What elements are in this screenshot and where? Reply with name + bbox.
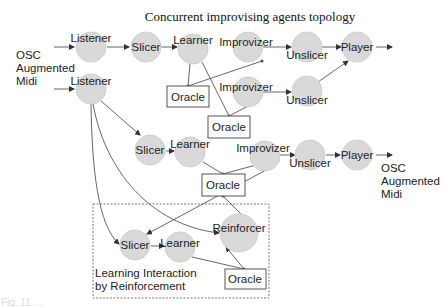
edge-listener2-slicer3 — [91, 104, 119, 244]
svg-text:Slicer: Slicer — [136, 144, 165, 156]
node-slicer1: Slicer — [131, 32, 161, 62]
edge-listener2-reinforcer — [93, 104, 219, 233]
group-label-line2: by Reinforcement — [95, 280, 186, 292]
svg-text:Slicer: Slicer — [132, 41, 161, 53]
diagram-title: Concurrent improvising agents topology — [145, 9, 356, 24]
edge-unslicer2-player1 — [318, 61, 348, 82]
node-unslicer3: Unslicer — [289, 140, 331, 170]
svg-text:Unslicer: Unslicer — [286, 49, 328, 61]
edge-learner2-oracle3 — [203, 162, 223, 174]
svg-text:Midi: Midi — [381, 188, 402, 200]
node-slicer2: Slicer — [135, 135, 165, 165]
svg-text:Listener: Listener — [71, 75, 112, 87]
svg-text:OSC: OSC — [16, 49, 41, 61]
node-oracle4: Oracle — [225, 269, 266, 289]
svg-text:Player: Player — [341, 41, 374, 53]
output-label: OSC Augmented Midi — [381, 162, 440, 200]
svg-text:Reinforcer: Reinforcer — [212, 222, 265, 234]
svg-text:Listener: Listener — [71, 32, 112, 44]
svg-text:Slicer: Slicer — [121, 239, 150, 251]
figure-caption: Fig. 11 ... — [1, 297, 42, 307]
node-listener2: Listener — [71, 74, 112, 104]
svg-text:Unslicer: Unslicer — [286, 94, 328, 106]
edge-oracle3-improvizer3 — [223, 165, 256, 174]
svg-text:Learner: Learner — [160, 237, 200, 249]
svg-text:Improvizer: Improvizer — [236, 142, 290, 154]
node-improvizer1: Improvizer — [219, 32, 273, 62]
svg-text:Midi: Midi — [16, 75, 37, 87]
node-learner1: Learner — [173, 34, 213, 64]
svg-text:Player: Player — [341, 149, 374, 161]
edge-oracle3-reinforcer — [223, 196, 241, 214]
svg-text:Learner: Learner — [170, 138, 210, 150]
node-oracle1: Oracle — [167, 86, 209, 107]
group-label-line1: Learning Interaction — [95, 267, 197, 279]
node-improvizer2: Improvizer — [219, 77, 273, 107]
svg-text:Oracle: Oracle — [171, 91, 205, 103]
svg-text:OSC: OSC — [381, 162, 406, 174]
svg-text:Oracle: Oracle — [212, 121, 246, 133]
node-oracle2: Oracle — [208, 116, 250, 138]
node-slicer3: Slicer — [120, 230, 150, 260]
svg-text:Unslicer: Unslicer — [289, 157, 331, 169]
node-player1: Player — [341, 32, 374, 62]
svg-text:Oracle: Oracle — [228, 273, 262, 285]
node-reinforcer: Reinforcer — [212, 214, 265, 252]
svg-text:Oracle: Oracle — [206, 179, 240, 191]
node-unslicer1: Unslicer — [286, 32, 328, 62]
input-label: OSC Augmented Midi — [16, 49, 75, 87]
node-unslicer2: Unslicer — [286, 76, 328, 106]
svg-text:Improvizer: Improvizer — [219, 36, 273, 48]
svg-text:Improvizer: Improvizer — [219, 81, 273, 93]
svg-text:Learner: Learner — [173, 34, 213, 46]
node-oracle3: Oracle — [202, 174, 245, 196]
node-listener1: Listener — [71, 32, 112, 62]
svg-text:Augmented: Augmented — [381, 175, 440, 187]
agents-topology-diagram: Concurrent improvising agents topology — [0, 0, 447, 307]
node-player3: Player — [341, 140, 374, 170]
edge-listener2-slicer2 — [101, 101, 140, 135]
svg-text:Augmented: Augmented — [16, 62, 75, 74]
edge-learner1-oracle1 — [188, 64, 190, 86]
node-improvizer3: Improvizer — [236, 141, 290, 171]
